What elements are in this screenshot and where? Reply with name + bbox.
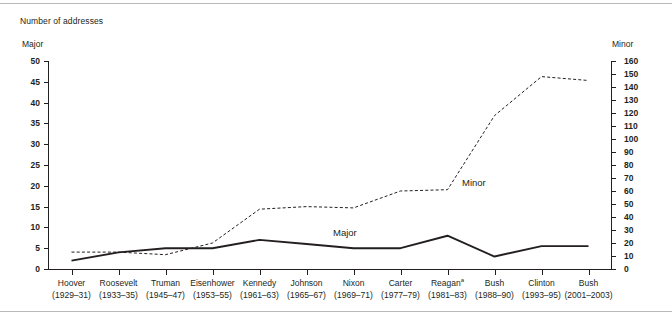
right-tick [612,61,616,62]
right-tick [612,165,616,166]
right-tick [612,243,616,244]
right-tick [612,230,616,231]
left-axis-tick-label: 25 [0,160,40,170]
right-axis-tick-label: 30 [624,225,654,235]
left-axis-tick-label: 5 [0,243,40,253]
right-tick [612,74,616,75]
right-tick [612,269,616,270]
x-tick [166,270,167,275]
right-axis-tick-label: 110 [624,121,654,131]
minor-series-line [72,77,589,255]
right-tick [612,191,616,192]
right-tick [612,100,616,101]
right-tick [612,217,616,218]
x-tick [213,270,214,275]
right-axis-tick-label: 130 [624,95,654,105]
left-axis-tick-label: 35 [0,118,40,128]
right-axis-tick-label: 50 [624,199,654,209]
x-axis-category-label: Johnson(1965–67) [287,278,326,301]
right-axis-tick-label: 70 [624,173,654,183]
right-axis-tick-label: 80 [624,160,654,170]
x-axis-category-label: Roosevelt(1933–35) [99,278,138,301]
x-tick [260,270,261,275]
plot-area [48,61,612,270]
right-axis-tick-label: 120 [624,108,654,118]
x-axis-category-label: Carter(1977–79) [381,278,420,301]
right-axis-caption: Minor [612,39,633,49]
x-tick [354,270,355,275]
right-tick [612,152,616,153]
left-axis-tick-label: 30 [0,139,40,149]
right-axis-tick-label: 40 [624,212,654,222]
minor-series-annotation: Minor [462,177,486,188]
left-axis-tick-label: 15 [0,202,40,212]
x-axis-category-label: Nixon(1969–71) [334,278,373,301]
figure-title: Number of addresses [20,16,103,26]
right-tick [612,256,616,257]
left-axis-tick-label: 45 [0,77,40,87]
x-axis-category-label: Eisenhower(1953–55) [190,278,234,301]
major-series-line [72,236,589,261]
right-axis-tick-label: 10 [624,251,654,261]
x-tick [307,270,308,275]
x-axis-category-label: Clinton(1993–95) [522,278,561,301]
right-axis-tick-label: 0 [624,264,654,274]
right-tick [612,204,616,205]
left-axis-tick-label: 40 [0,98,40,108]
top-divider [0,3,672,4]
right-tick [612,87,616,88]
left-axis-tick-label: 50 [0,56,40,66]
x-tick [119,270,120,275]
left-axis-tick-label: 20 [0,181,40,191]
x-axis-category-label: Bush(2001–2003) [564,278,612,301]
bottom-divider [0,311,672,312]
right-axis-tick-label: 150 [624,69,654,79]
series-lines [48,61,612,270]
x-axis-category-label: Hoover(1929–31) [52,278,91,301]
right-axis-tick-label: 100 [624,134,654,144]
right-axis-tick-label: 140 [624,82,654,92]
right-axis-tick-label: 60 [624,186,654,196]
right-tick [612,178,616,179]
x-tick [495,270,496,275]
x-tick [72,270,73,275]
x-axis-category-label: Bush(1988–90) [475,278,514,301]
x-axis-category-label: Reagana(1981–83) [428,278,467,301]
x-tick [401,270,402,275]
x-axis-category-label: Truman(1945–47) [146,278,185,301]
x-tick [589,270,590,275]
x-tick [448,270,449,275]
right-axis-tick-label: 20 [624,238,654,248]
left-axis-tick-label: 0 [0,264,40,274]
left-axis-caption: Major [22,39,43,49]
right-tick [612,126,616,127]
right-axis-tick-label: 160 [624,56,654,66]
left-axis-tick-label: 10 [0,222,40,232]
right-tick [612,113,616,114]
x-axis-category-label: Kennedy(1961–63) [240,278,279,301]
right-axis-tick-label: 90 [624,147,654,157]
right-tick [612,139,616,140]
major-series-annotation: Major [333,227,357,238]
x-tick [542,270,543,275]
